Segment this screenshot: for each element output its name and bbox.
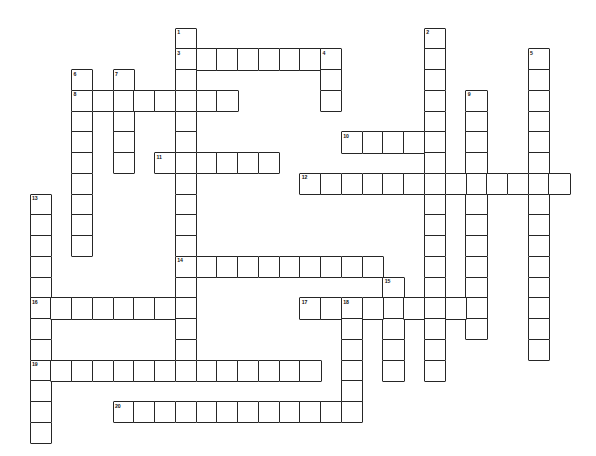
crossword-cell[interactable]	[528, 339, 550, 361]
crossword-cell[interactable]	[92, 360, 114, 382]
crossword-cell[interactable]	[403, 131, 425, 153]
crossword-cell[interactable]	[465, 235, 487, 257]
crossword-cell[interactable]	[71, 214, 93, 236]
crossword-cell[interactable]	[154, 401, 176, 423]
crossword-cell[interactable]	[320, 297, 342, 319]
crossword-cell[interactable]	[424, 111, 446, 133]
crossword-cell[interactable]	[196, 90, 218, 112]
crossword-cell[interactable]	[196, 48, 218, 70]
crossword-cell[interactable]	[528, 173, 550, 195]
crossword-cell[interactable]	[424, 214, 446, 236]
crossword-cell[interactable]	[175, 360, 197, 382]
crossword-cell[interactable]	[216, 401, 238, 423]
crossword-cell[interactable]	[528, 235, 550, 257]
crossword-cell[interactable]	[216, 152, 238, 174]
crossword-cell[interactable]	[196, 401, 218, 423]
crossword-cell[interactable]	[175, 235, 197, 257]
crossword-cell[interactable]	[465, 277, 487, 299]
crossword-cell[interactable]	[154, 360, 176, 382]
crossword-cell[interactable]	[465, 194, 487, 216]
crossword-cell[interactable]	[30, 235, 52, 257]
crossword-cell[interactable]	[113, 131, 135, 153]
crossword-cell[interactable]	[424, 48, 446, 70]
crossword-cell[interactable]	[424, 256, 446, 278]
crossword-cell[interactable]	[175, 69, 197, 91]
crossword-cell[interactable]	[320, 90, 342, 112]
crossword-cell[interactable]	[341, 401, 363, 423]
crossword-cell[interactable]	[486, 173, 508, 195]
crossword-cell[interactable]	[216, 90, 238, 112]
crossword-cell[interactable]	[216, 48, 238, 70]
crossword-cell[interactable]	[299, 360, 321, 382]
crossword-cell[interactable]	[403, 297, 425, 319]
crossword-cell[interactable]	[133, 401, 155, 423]
crossword-cell[interactable]	[424, 277, 446, 299]
crossword-cell[interactable]	[196, 360, 218, 382]
crossword-cell[interactable]	[175, 318, 197, 340]
crossword-cell[interactable]	[424, 360, 446, 382]
crossword-cell[interactable]	[71, 360, 93, 382]
crossword-cell[interactable]	[279, 360, 301, 382]
crossword-cell[interactable]	[465, 152, 487, 174]
crossword-cell[interactable]	[175, 152, 197, 174]
crossword-cell[interactable]	[133, 90, 155, 112]
crossword-cell[interactable]	[403, 173, 425, 195]
crossword-cell[interactable]	[50, 297, 72, 319]
crossword-cell[interactable]	[133, 297, 155, 319]
crossword-cell[interactable]	[237, 256, 259, 278]
crossword-cell[interactable]	[362, 131, 384, 153]
crossword-cell[interactable]	[175, 339, 197, 361]
crossword-cell[interactable]	[113, 90, 135, 112]
crossword-cell[interactable]	[362, 256, 384, 278]
crossword-cell[interactable]	[175, 131, 197, 153]
crossword-cell[interactable]	[50, 360, 72, 382]
crossword-cell[interactable]	[71, 173, 93, 195]
crossword-cell[interactable]	[341, 318, 363, 340]
crossword-cell[interactable]	[279, 401, 301, 423]
crossword-cell[interactable]	[299, 48, 321, 70]
crossword-cell[interactable]	[382, 297, 404, 319]
crossword-cell[interactable]	[175, 194, 197, 216]
crossword-cell[interactable]	[258, 48, 280, 70]
crossword-cell[interactable]	[341, 173, 363, 195]
crossword-cell[interactable]	[528, 297, 550, 319]
crossword-cell[interactable]	[341, 339, 363, 361]
crossword-cell[interactable]	[216, 256, 238, 278]
crossword-cell[interactable]	[237, 48, 259, 70]
crossword-cell[interactable]	[528, 277, 550, 299]
crossword-cell[interactable]	[30, 256, 52, 278]
crossword-cell[interactable]	[30, 339, 52, 361]
crossword-cell[interactable]	[382, 173, 404, 195]
crossword-cell[interactable]	[113, 152, 135, 174]
crossword-cell[interactable]	[175, 297, 197, 319]
crossword-cell[interactable]	[507, 173, 529, 195]
crossword-cell[interactable]	[465, 173, 487, 195]
crossword-cell[interactable]	[424, 173, 446, 195]
crossword-cell[interactable]	[341, 360, 363, 382]
crossword-cell[interactable]	[258, 401, 280, 423]
crossword-cell[interactable]	[175, 111, 197, 133]
crossword-cell[interactable]	[320, 69, 342, 91]
crossword-cell[interactable]	[71, 194, 93, 216]
crossword-cell[interactable]	[175, 277, 197, 299]
crossword-cell[interactable]	[299, 401, 321, 423]
crossword-cell[interactable]	[424, 235, 446, 257]
crossword-cell[interactable]	[71, 111, 93, 133]
crossword-cell[interactable]	[362, 173, 384, 195]
crossword-cell[interactable]	[548, 173, 570, 195]
crossword-cell[interactable]	[528, 111, 550, 133]
crossword-cell[interactable]	[71, 235, 93, 257]
crossword-cell[interactable]	[133, 360, 155, 382]
crossword-cell[interactable]	[528, 69, 550, 91]
crossword-cell[interactable]	[528, 214, 550, 236]
crossword-cell[interactable]	[92, 297, 114, 319]
crossword-cell[interactable]	[196, 256, 218, 278]
crossword-cell[interactable]	[382, 339, 404, 361]
crossword-cell[interactable]	[528, 256, 550, 278]
crossword-cell[interactable]	[465, 256, 487, 278]
crossword-cell[interactable]	[382, 131, 404, 153]
crossword-cell[interactable]	[465, 318, 487, 340]
crossword-cell[interactable]	[175, 401, 197, 423]
crossword-cell[interactable]	[424, 69, 446, 91]
crossword-cell[interactable]	[258, 360, 280, 382]
